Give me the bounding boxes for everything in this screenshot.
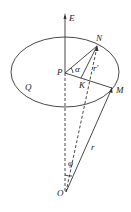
label-O: O (57, 189, 64, 198)
arrow-E-icon (64, 13, 67, 19)
line-PM (65, 73, 112, 88)
label-P: P (57, 68, 63, 77)
label-M: M (116, 86, 124, 95)
label-N: N (96, 34, 102, 43)
label-Q: Q (25, 83, 32, 92)
label-phi: φ (68, 159, 73, 168)
angle-alpha-arc (71, 68, 73, 73)
label-alpha: α (75, 65, 80, 74)
cone-diagram (0, 0, 131, 212)
angle-phi-arc (65, 175, 72, 176)
label-E: E (69, 14, 75, 23)
line-KN (81, 46, 97, 78)
label-r: r (91, 143, 95, 152)
label-r-prime: r' (93, 64, 98, 73)
label-K: K (79, 81, 85, 90)
